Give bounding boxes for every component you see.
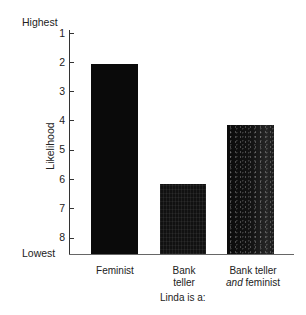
bar-bank-teller-and-feminist <box>227 125 274 254</box>
x-category-bank-teller: Bank teller <box>158 265 210 289</box>
y-tick-label-5: 5 <box>51 143 65 155</box>
y-tick-mark-5 <box>69 150 74 151</box>
x-axis-line <box>69 254 294 255</box>
likelihood-bar-chart: Highest Lowest Likelihood 1 2 3 4 5 6 7 … <box>0 0 306 315</box>
x-category-bank-teller-and-feminist: Bank teller and feminist <box>218 265 288 289</box>
y-tick-label-4: 4 <box>51 114 65 126</box>
y-tick-label-7: 7 <box>51 202 65 214</box>
y-tick-mark-7 <box>69 208 74 209</box>
y-tick-mark-8 <box>69 238 74 239</box>
x-category-bank-teller-line2: teller <box>158 277 210 289</box>
y-tick-mark-2 <box>69 62 74 63</box>
x-category-btf-rest: feminist <box>243 277 280 288</box>
y-tick-mark-4 <box>69 120 74 121</box>
y-tick-mark-6 <box>69 179 74 180</box>
bar-feminist <box>91 64 138 254</box>
y-tick-label-6: 6 <box>51 173 65 185</box>
x-category-bank-teller-line1: Bank <box>158 265 210 277</box>
x-category-btf-italic: and <box>226 277 243 288</box>
y-tick-label-1: 1 <box>51 27 65 39</box>
y-axis-lowest-label: Lowest <box>22 247 55 259</box>
bar-bank-teller <box>160 184 206 254</box>
y-tick-label-2: 2 <box>51 56 65 68</box>
x-category-btf-line1: Bank teller <box>218 265 288 277</box>
y-tick-label-8: 8 <box>51 231 65 243</box>
x-axis-title: Linda is a: <box>160 292 206 303</box>
x-category-feminist-line1: Feminist <box>89 265 141 277</box>
y-tick-mark-1 <box>69 33 74 34</box>
y-tick-label-3: 3 <box>51 85 65 97</box>
x-category-feminist: Feminist <box>89 265 141 277</box>
y-tick-mark-3 <box>69 91 74 92</box>
y-axis-line <box>69 30 70 255</box>
x-category-btf-line2: and feminist <box>218 277 288 289</box>
